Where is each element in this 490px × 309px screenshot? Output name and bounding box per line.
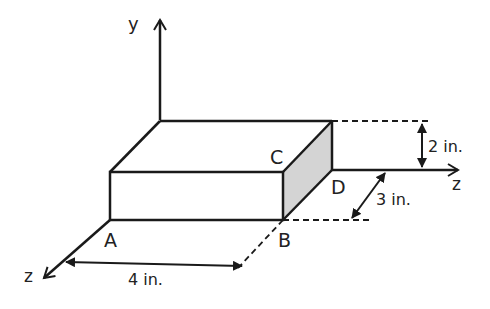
z-axis-left-label: z (24, 266, 33, 286)
depth-dimension-label: 3 in. (376, 190, 411, 209)
point-b-label: B (278, 229, 291, 251)
width-dimension-label: 4 in. (128, 270, 163, 289)
z-axis-left (44, 220, 110, 278)
box-dimension-diagram: y z z A B C D 2 in. 3 in. 4 in. (0, 0, 490, 309)
point-d-label: D (331, 176, 346, 198)
z-axis-right-label: z (452, 174, 461, 194)
point-a-label: A (104, 229, 117, 251)
diagram-canvas: y z z A B C D 2 in. 3 in. 4 in. (0, 0, 490, 309)
width-dimension-arrow (66, 262, 242, 266)
shaded-side-face (283, 122, 332, 220)
y-axis-label: y (128, 13, 139, 34)
height-dimension-label: 2 in. (428, 137, 463, 156)
point-c-label: C (270, 146, 283, 168)
